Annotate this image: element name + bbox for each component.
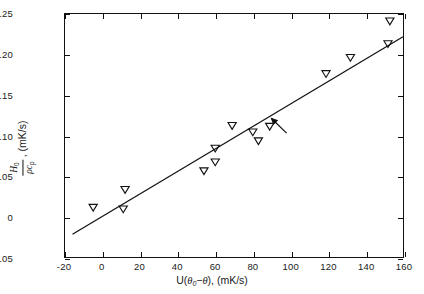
x-axis-tick [178,14,179,19]
x-title-prefix: U( [176,274,187,286]
y-axis-title-fraction: H0 ρcp [10,159,36,175]
x-axis-tick [367,252,368,257]
data-point-marker [228,123,236,130]
x-axis-tick [65,252,66,257]
y-axis-tick-label: 0.15 [0,89,13,100]
x-axis-tick [329,14,330,19]
x-axis-tick [141,252,142,257]
x-axis-title: U(θ0−θ), (mK/s) [0,274,424,287]
data-canvas [65,14,403,257]
x-axis-tick-label: 20 [134,261,145,272]
y-axis-tick-label: 0 [8,212,13,223]
data-point-marker [386,18,394,25]
y-axis-tick [65,137,70,138]
y-axis-tick [398,177,403,178]
y-axis-units: , (mK/s) [17,120,29,157]
y-den-subscript: p [29,161,36,165]
y-axis-tick [398,55,403,56]
data-point-marker [121,187,129,194]
y-axis-tick [65,55,70,56]
y-axis-tick-label: 0.20 [0,48,13,59]
x-axis-tick [405,252,406,257]
x-axis-tick [329,252,330,257]
y-axis-tick [65,259,70,260]
y-den-rho: ρ [25,169,35,174]
x-axis-tick [292,14,293,19]
x-axis-tick-label: 140 [358,261,374,272]
y-axis-tick-label: 0.05 [0,171,13,182]
y-axis-tick-label: 0.10 [0,130,13,141]
x-axis-tick [178,252,179,257]
data-point-marker [322,71,330,78]
y-axis-tick [398,259,403,260]
x-axis-tick [141,14,142,19]
plot-area [64,13,404,258]
data-point-marker [211,159,219,166]
x-axis-tick [216,252,217,257]
data-point-marker [254,138,262,145]
figure-root: H0 ρcp , (mK/s) U(θ0−θ), (mK/s) -2002040… [0,0,424,294]
x-axis-tick [254,14,255,19]
y-axis-tick-label: 0.25 [0,8,13,19]
x-axis-tick [103,252,104,257]
x-axis-tick-label: 60 [210,261,221,272]
x-axis-tick-label: 120 [320,261,336,272]
data-point-marker [119,206,127,213]
data-point-marker [200,168,208,175]
y-axis-tick [398,137,403,138]
data-point-marker [346,54,354,61]
y-axis-tick [65,96,70,97]
y-axis-tick-label: -0.05 [0,253,13,264]
x-axis-tick-label: 0 [99,261,104,272]
y-num-subscript: 0 [14,162,21,166]
x-axis-tick [292,252,293,257]
y-den-c: c [25,165,35,169]
x-axis-tick-label: -20 [57,261,71,272]
data-point-marker [266,123,274,130]
x-axis-tick [254,252,255,257]
y-axis-tick [65,14,70,15]
data-point-marker [89,204,97,211]
x-axis-tick [103,14,104,19]
y-axis-tick [398,96,403,97]
y-axis-tick [398,14,403,15]
x-title-suffix: ), (mK/s) [208,274,248,286]
x-axis-tick [367,14,368,19]
regression-line [73,37,403,235]
x-axis-tick-label: 80 [247,261,258,272]
y-axis-tick [65,177,70,178]
y-axis-tick [65,218,70,219]
data-point-marker [249,129,257,136]
x-axis-tick-label: 100 [282,261,298,272]
x-axis-tick [405,14,406,19]
x-axis-tick-label: 40 [172,261,183,272]
x-axis-tick [216,14,217,19]
x-axis-tick-label: 160 [396,261,412,272]
y-axis-tick [398,218,403,219]
